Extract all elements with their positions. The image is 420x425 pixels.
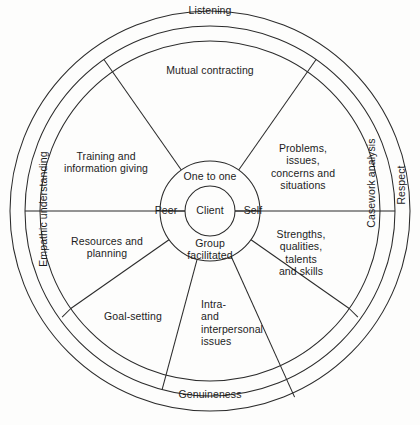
- divider-upper-right: [239, 72, 308, 170]
- divider-bottom-right: [231, 256, 295, 397]
- client-core-circle: [185, 186, 235, 236]
- divider-lower-left: [71, 240, 169, 309]
- tick-ring2-lower-right: [349, 309, 358, 318]
- tick-ring2-upper-right: [308, 60, 317, 72]
- wheel-svg: [0, 0, 420, 425]
- divider-lower-right: [251, 240, 349, 309]
- tick-ring2-upper-left: [104, 60, 113, 72]
- divider-upper-left: [113, 72, 182, 170]
- divider-bottom-left: [166, 259, 197, 375]
- tick-ring2-lower-left: [62, 309, 71, 318]
- wheel-diagram: Listening Respect Genuineness Empathic u…: [0, 0, 420, 425]
- tick-ring2-bottom-left: [162, 375, 166, 390]
